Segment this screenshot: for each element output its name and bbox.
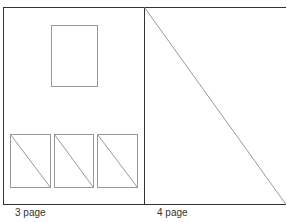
page-4 bbox=[145, 8, 287, 205]
full-page-image-diagonal bbox=[145, 8, 287, 205]
page-3 bbox=[4, 8, 145, 205]
page-3-frame bbox=[4, 8, 145, 205]
page-layout-diagram bbox=[0, 0, 286, 222]
page-4-label: 4 page bbox=[157, 207, 188, 218]
page-3-label: 3 page bbox=[15, 207, 46, 218]
